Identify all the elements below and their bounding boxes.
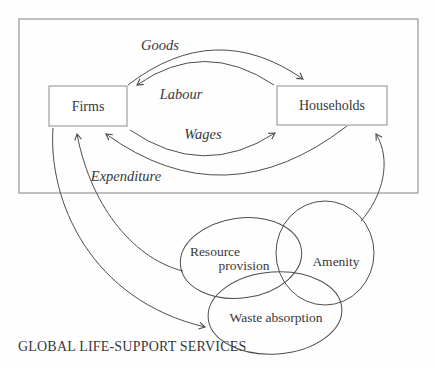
- goods-label: Goods: [141, 37, 179, 53]
- firms-to-waste-arrow: [53, 128, 205, 327]
- resource-to-firms-arrow: [77, 134, 183, 271]
- labour-arrow: [137, 62, 274, 86]
- firms-label: Firms: [72, 99, 105, 114]
- diagram-svg: Firms Households Goods Labour Wages Expe…: [0, 0, 435, 369]
- amenity-label: Amenity: [312, 254, 359, 269]
- expenditure-label: Expenditure: [90, 168, 162, 184]
- goods-arrow: [128, 50, 303, 85]
- waste-absorption-label: Waste absorption: [229, 310, 322, 325]
- households-label: Households: [299, 98, 365, 113]
- amenity-ellipse: [276, 201, 374, 305]
- wages-label: Wages: [184, 126, 222, 142]
- resource-label-line2: provision: [218, 258, 269, 273]
- global-life-support-services-caption: GLOBAL LIFE-SUPPORT SERVICES: [18, 339, 246, 354]
- resource-label-line1: Resource: [190, 244, 240, 259]
- amenity-to-households-arrow: [361, 134, 384, 221]
- circular-flow-diagram: Firms Households Goods Labour Wages Expe…: [0, 0, 435, 369]
- labour-label: Labour: [159, 86, 203, 102]
